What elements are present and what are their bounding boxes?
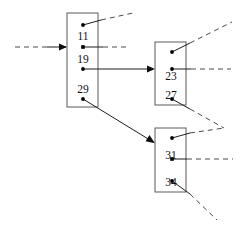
edge-upper-port2-out <box>172 99 224 128</box>
lower-key-31-label: 31 <box>165 149 177 161</box>
root-port-3-dot <box>81 97 85 101</box>
incoming-root-pointer-arrowhead <box>59 43 67 50</box>
root-port-1-dot <box>81 45 85 49</box>
edge-root-port3-line <box>83 99 152 141</box>
lower-key-34-label: 34 <box>165 176 177 188</box>
upper-key-27-label: 27 <box>165 89 177 101</box>
root-port-2-dot <box>81 67 85 71</box>
edge-upper-port0-dashed-segment <box>190 22 232 43</box>
edge-root-port3-to-lower-child <box>83 99 155 143</box>
edge-root-port2-arrowhead <box>147 65 155 72</box>
edge-root-port0-dashed-segment <box>101 13 133 20</box>
root-port-0-dot <box>81 23 85 27</box>
lower-port-0-dot <box>170 136 174 140</box>
edge-root-port3-arrowhead <box>146 135 155 143</box>
upper-key-23-label: 23 <box>165 70 177 82</box>
b-tree-pointer-diagram: 11 19 29 23 27 <box>0 0 243 233</box>
edge-upper-port2-dashed-segment <box>190 109 224 128</box>
root-key-19-label: 19 <box>77 53 89 65</box>
incoming-root-pointer <box>15 43 67 50</box>
edge-upper-port0-out <box>172 22 232 52</box>
root-key-29-label: 29 <box>77 83 89 95</box>
upper-port-0-dot <box>170 50 174 54</box>
edge-lower-port2-dashed-segment <box>190 194 217 220</box>
diagram-canvas: 11 19 29 23 27 <box>0 0 243 233</box>
root-key-11-label: 11 <box>77 30 88 42</box>
edge-lower-port0-dashed-segment <box>190 128 224 133</box>
